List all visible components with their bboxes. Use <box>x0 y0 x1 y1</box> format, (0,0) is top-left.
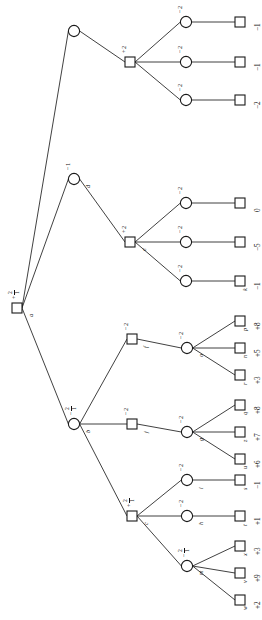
terminal-name-label: w <box>242 606 248 610</box>
terminal-node[interactable] <box>235 57 245 67</box>
tree-edge <box>80 31 125 62</box>
node-probability-label: −2 <box>177 186 184 194</box>
terminal-name-label: s <box>242 488 248 490</box>
terminal-payoff-label: 0 <box>255 208 262 212</box>
node-name-label: j <box>143 431 149 433</box>
terminal-payoff-label: +6 <box>255 460 262 468</box>
decision-node-circle[interactable] <box>180 197 191 208</box>
game-tree-diagram: +21a+2−2−2−2−1d+2e−2−2−2−21b−2f−2o−2j−2g… <box>0 0 262 620</box>
node-probability-label: −2 <box>177 225 184 233</box>
decision-node-circle[interactable] <box>181 474 192 485</box>
terminal-node[interactable] <box>235 370 245 380</box>
terminal-node[interactable] <box>235 316 245 326</box>
terminal-node[interactable] <box>235 541 245 551</box>
node-name-label: g <box>198 438 204 441</box>
decision-node-square[interactable] <box>125 57 135 67</box>
node-probability-label: −2 <box>178 415 185 423</box>
node-probability-label: −21 <box>178 548 190 557</box>
decision-node-circle[interactable] <box>68 173 79 184</box>
decision-node-circle[interactable] <box>68 418 79 429</box>
decision-node-circle[interactable] <box>180 275 191 286</box>
terminal-node[interactable] <box>235 198 245 208</box>
terminal-node[interactable] <box>235 343 245 353</box>
node-probability-label: +21 <box>123 498 135 507</box>
node-name-label: i <box>198 487 204 489</box>
decision-node-circle[interactable] <box>181 342 192 353</box>
node-name-label: b <box>85 430 91 433</box>
terminal-payoff-label: +5 <box>255 349 262 357</box>
terminal-node[interactable] <box>235 475 245 485</box>
decision-node-circle[interactable] <box>180 16 191 27</box>
node-probability-label: −21 <box>65 406 77 415</box>
terminal-payoff-label: +3 <box>255 376 262 384</box>
terminal-name-label: n <box>242 355 248 358</box>
node-probability-label: −2 <box>123 322 130 330</box>
terminal-name-label: t <box>242 524 248 526</box>
node-name-label: e <box>141 248 147 251</box>
terminal-node[interactable] <box>235 511 245 521</box>
terminal-node[interactable] <box>235 427 245 437</box>
terminal-node[interactable] <box>235 17 245 27</box>
terminal-node[interactable] <box>235 568 245 578</box>
decision-node-circle[interactable] <box>180 56 191 67</box>
terminal-name-label: x <box>242 553 248 556</box>
node-probability-label: +21 <box>8 290 20 299</box>
terminal-node[interactable] <box>235 595 245 605</box>
node-name-label: a <box>28 314 34 317</box>
tree-edge <box>137 480 181 516</box>
node-name-label: m <box>198 571 204 575</box>
terminal-name-label: p <box>242 328 248 331</box>
terminal-payoff-label: −5 <box>255 243 262 251</box>
node-probability-label: +2 <box>121 225 128 233</box>
decision-node-circle[interactable] <box>180 94 191 105</box>
node-probability-label: −2 <box>177 5 184 13</box>
decision-node-square[interactable] <box>127 511 137 521</box>
tree-edge <box>193 348 235 375</box>
decision-node-circle[interactable] <box>181 510 192 521</box>
terminal-name-label: v <box>242 580 248 583</box>
terminal-name-label: r <box>242 383 248 385</box>
node-probability-label: −2 <box>178 331 185 339</box>
tree-edge <box>193 321 235 348</box>
tree-edge <box>193 405 235 432</box>
tree-edge <box>80 339 127 424</box>
terminal-name-label: z <box>242 440 248 442</box>
terminal-payoff-label: +2 <box>255 601 262 609</box>
tree-edge <box>22 179 68 308</box>
decision-node-square[interactable] <box>127 419 137 429</box>
terminal-payoff-label: −2 <box>255 101 262 109</box>
decision-node-square[interactable] <box>12 303 22 313</box>
node-name-label: c <box>143 522 149 525</box>
tree-edge <box>22 31 68 308</box>
terminal-payoff-label: +1 <box>255 517 262 525</box>
terminal-node[interactable] <box>235 276 245 286</box>
decision-node-circle[interactable] <box>181 426 192 437</box>
node-name-label: d <box>85 185 91 188</box>
terminal-node[interactable] <box>235 95 245 105</box>
terminal-payoff-label: +9 <box>255 574 262 582</box>
decision-node-circle[interactable] <box>180 236 191 247</box>
terminal-payoff-label: +7 <box>255 433 262 441</box>
terminal-node[interactable] <box>235 454 245 464</box>
node-probability-label: −2 <box>177 264 184 272</box>
terminal-payoff-label: −1 <box>255 23 262 31</box>
terminal-payoff-label: +3 <box>255 547 262 555</box>
node-name-label: f <box>143 346 149 348</box>
terminal-node[interactable] <box>235 400 245 410</box>
node-probability-label: −2 <box>177 83 184 91</box>
tree-edge <box>193 432 235 459</box>
decision-node-circle[interactable] <box>181 560 192 571</box>
node-probability-label: −2 <box>177 45 184 53</box>
terminal-name-label: k <box>242 288 248 291</box>
terminal-name-label: q <box>242 412 248 415</box>
node-probability-label: −2 <box>178 499 185 507</box>
terminal-payoff-label: +8 <box>255 322 262 330</box>
terminal-payoff-label: −1 <box>255 63 262 71</box>
decision-node-square[interactable] <box>125 237 135 247</box>
tree-edge <box>135 22 180 62</box>
node-probability-label: −1 <box>65 162 72 170</box>
decision-node-square[interactable] <box>127 334 137 344</box>
node-name-label: o <box>198 354 204 357</box>
decision-node-circle[interactable] <box>68 25 79 36</box>
terminal-node[interactable] <box>235 237 245 247</box>
